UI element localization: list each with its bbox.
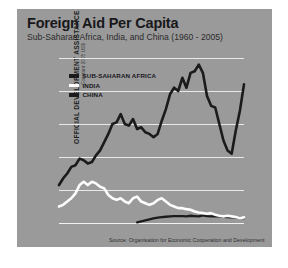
page-title: Foreign Aid Per Capita bbox=[27, 15, 267, 31]
legend-label-india: INDIA bbox=[83, 82, 101, 90]
legend-label-china: CHINA bbox=[83, 91, 103, 99]
legend-swatch-icon-china bbox=[69, 93, 79, 97]
chart-header: Foreign Aid Per Capita Sub-Saharan Afric… bbox=[27, 15, 267, 43]
series-line-india bbox=[59, 182, 244, 218]
legend-swatch-icon-sub-saharan-africa bbox=[69, 74, 79, 78]
chart-panel: Foreign Aid Per Capita Sub-Saharan Afric… bbox=[17, 9, 272, 247]
axis-baseline bbox=[59, 223, 244, 224]
legend-swatch-icon-india bbox=[69, 84, 79, 88]
legend-item-sub-saharan-africa: SUB-SAHARAN AFRICA bbox=[69, 72, 179, 80]
legend-label-sub-saharan-africa: SUB-SAHARAN AFRICA bbox=[83, 72, 157, 80]
chart-figure: Foreign Aid Per Capita Sub-Saharan Afric… bbox=[0, 0, 288, 268]
source-note: Source: Organisation for Economic Cooper… bbox=[109, 237, 264, 244]
legend-item-india: INDIA bbox=[69, 82, 179, 90]
chart-subtitle: Sub-Saharan Africa, India, and China (19… bbox=[27, 32, 267, 43]
legend-item-china: CHINA bbox=[69, 91, 179, 99]
chart-legend: SUB-SAHARAN AFRICA INDIA CHINA bbox=[69, 72, 179, 101]
